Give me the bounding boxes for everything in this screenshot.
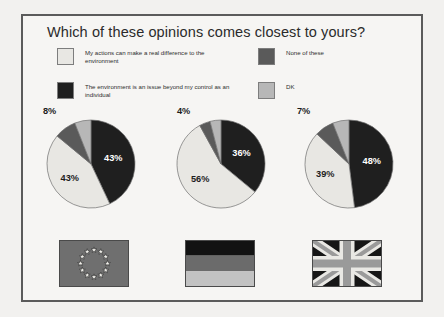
- germany-flag: [185, 240, 255, 287]
- germany-flag-svg: [185, 240, 255, 287]
- pie-chart-row: 43%43%8% 36%56%4% 48%39%7%: [23, 104, 423, 216]
- flag-row: [23, 240, 423, 298]
- chart-legend: My actions can make a real difference to…: [53, 46, 413, 108]
- legend-label-opinion-beyond: The environment is an issue beyond my co…: [85, 82, 237, 100]
- pie-slice-label: 39%: [316, 169, 334, 179]
- pie-chart-united-kingdom: 48%39%7%: [287, 104, 419, 216]
- united-kingdom-flag: [312, 240, 382, 287]
- legend-item-none-of-these: None of these: [258, 48, 408, 65]
- uk-flag-svg: [312, 240, 382, 287]
- pie-svg-germany: [175, 118, 269, 212]
- legend-swatch-opinion-beyond: [57, 82, 74, 99]
- legend-label-none-of-these: None of these: [286, 48, 324, 57]
- pie-chart-germany: 36%56%4%: [159, 104, 291, 216]
- legend-swatch-opinion-actions: [57, 48, 74, 65]
- pie-slice-label: 43%: [104, 153, 122, 163]
- legend-swatch-dk: [258, 82, 275, 99]
- legend-item-opinion-actions: My actions can make a real difference to…: [57, 48, 237, 66]
- european-union-flag: [59, 240, 129, 287]
- slide-frame: Which of these opinions comes closest to…: [21, 14, 423, 302]
- legend-item-opinion-beyond: The environment is an issue beyond my co…: [57, 82, 237, 100]
- legend-item-dk: DK: [258, 82, 408, 99]
- pie-slice-label: 4%: [177, 106, 190, 116]
- pie-slice-label: 48%: [363, 156, 381, 166]
- legend-swatch-none-of-these: [258, 48, 275, 65]
- pie-svg-european-union: [45, 118, 139, 212]
- pie-slice-label: 8%: [43, 106, 56, 116]
- pie-chart-european-union: 43%43%8%: [29, 104, 161, 216]
- page-title: Which of these opinions comes closest to…: [47, 24, 407, 40]
- legend-label-dk: DK: [286, 82, 294, 91]
- pie-slice-label: 56%: [191, 174, 209, 184]
- pie-svg-united-kingdom: [303, 118, 397, 212]
- pie-slice-label: 36%: [232, 148, 250, 158]
- eu-flag-svg: [59, 240, 129, 287]
- legend-label-opinion-actions: My actions can make a real difference to…: [85, 48, 237, 66]
- pie-slice-label: 7%: [297, 106, 310, 116]
- pie-slice-label: 43%: [61, 173, 79, 183]
